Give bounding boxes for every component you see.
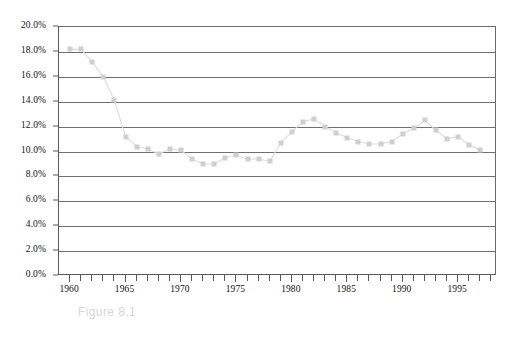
data-point — [434, 128, 439, 133]
series-line — [59, 27, 497, 276]
x-axis-tick — [280, 275, 281, 281]
x-axis-tick — [435, 275, 436, 281]
data-point — [90, 59, 95, 64]
data-point — [378, 142, 383, 147]
data-point — [167, 147, 172, 152]
y-axis-tick-label: 6.0% — [26, 196, 46, 206]
x-axis-tick — [313, 275, 314, 281]
x-axis-tick — [490, 275, 491, 281]
x-axis-tick — [80, 275, 81, 281]
x-axis-tick — [357, 275, 358, 281]
data-point — [178, 148, 183, 153]
figure-caption: Figure 8.1 — [78, 306, 136, 318]
x-axis-tick — [269, 275, 270, 281]
x-axis-labels: 19601965197019751980198519901995 — [0, 285, 515, 301]
data-point — [334, 130, 339, 135]
x-axis-tick — [235, 275, 236, 282]
data-point — [345, 135, 350, 140]
data-point — [256, 156, 261, 161]
x-axis-tick — [247, 275, 248, 281]
x-axis-tick — [468, 275, 469, 281]
x-axis-tick — [258, 275, 259, 281]
y-axis-tick-label: 4.0% — [26, 220, 46, 230]
x-axis-tick — [380, 275, 381, 281]
data-point — [112, 98, 117, 103]
data-point — [123, 134, 128, 139]
data-point — [467, 143, 472, 148]
x-axis-tick — [346, 275, 347, 282]
x-axis-tick — [424, 275, 425, 281]
data-point — [134, 144, 139, 149]
x-axis-tick — [202, 275, 203, 281]
x-axis-tick-label: 1995 — [447, 285, 466, 295]
x-axis-tick — [402, 275, 403, 282]
data-point — [445, 137, 450, 142]
data-point — [101, 74, 106, 79]
y-axis-tick-label: 14.0% — [21, 96, 46, 106]
x-axis-tick — [158, 275, 159, 281]
x-axis-tick — [368, 275, 369, 281]
x-axis-tick — [224, 275, 225, 281]
data-point — [289, 129, 294, 134]
data-point — [300, 119, 305, 124]
figure-container: 0.0%2.0%4.0%6.0%8.0%10.0%12.0%14.0%16.0%… — [0, 0, 515, 337]
y-axis-tick-label: 18.0% — [21, 46, 46, 56]
x-axis-tick — [302, 275, 303, 281]
data-point — [245, 156, 250, 161]
data-point — [323, 124, 328, 129]
y-axis-tick-label: 12.0% — [21, 121, 46, 131]
x-axis-tick — [169, 275, 170, 281]
x-axis-tick-label: 1980 — [281, 285, 300, 295]
data-point — [223, 155, 228, 160]
x-axis-tick — [102, 275, 103, 281]
x-axis-tick — [413, 275, 414, 281]
x-axis-tick — [91, 275, 92, 281]
x-axis-tick-label: 1970 — [170, 285, 189, 295]
plot-area — [58, 26, 496, 275]
x-axis-tick — [147, 275, 148, 281]
x-axis-tick-label: 1985 — [337, 285, 356, 295]
y-axis-tick-label: 16.0% — [21, 71, 46, 81]
x-axis-tick-label: 1975 — [226, 285, 245, 295]
data-point — [478, 148, 483, 153]
data-point — [456, 134, 461, 139]
y-axis-tick-label: 2.0% — [26, 245, 46, 255]
y-axis-tick-label: 10.0% — [21, 146, 46, 156]
x-axis-tick — [136, 275, 137, 281]
x-axis-tick-label: 1965 — [115, 285, 134, 295]
data-point — [367, 142, 372, 147]
x-axis-tick — [324, 275, 325, 281]
y-axis-tick-label: 20.0% — [21, 21, 46, 31]
x-axis-tick — [213, 275, 214, 281]
data-point — [145, 147, 150, 152]
x-axis-ticks — [0, 275, 515, 283]
data-point — [389, 139, 394, 144]
data-point — [278, 140, 283, 145]
data-point — [234, 153, 239, 158]
x-axis-tick-label: 1990 — [392, 285, 411, 295]
data-point — [212, 161, 217, 166]
data-point — [201, 161, 206, 166]
x-axis-tick — [391, 275, 392, 281]
y-axis-tick-label: 8.0% — [26, 171, 46, 181]
x-axis-tick — [191, 275, 192, 281]
x-axis-tick — [69, 275, 70, 282]
data-point — [68, 47, 73, 52]
data-point — [156, 151, 161, 156]
data-point — [312, 117, 317, 122]
data-point — [79, 47, 84, 52]
x-axis-tick — [446, 275, 447, 281]
x-axis-tick — [479, 275, 480, 281]
x-axis-tick — [125, 275, 126, 282]
x-axis-tick-label: 1960 — [59, 285, 78, 295]
data-point — [411, 125, 416, 130]
data-point — [400, 132, 405, 137]
x-axis-tick — [113, 275, 114, 281]
data-point — [267, 159, 272, 164]
data-point — [356, 139, 361, 144]
x-axis-tick — [457, 275, 458, 282]
x-axis-tick — [291, 275, 292, 282]
data-point — [422, 118, 427, 123]
x-axis-tick — [180, 275, 181, 282]
data-point — [190, 156, 195, 161]
